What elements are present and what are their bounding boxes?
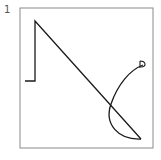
arc-curve (109, 65, 143, 139)
diagram-canvas (0, 0, 161, 160)
